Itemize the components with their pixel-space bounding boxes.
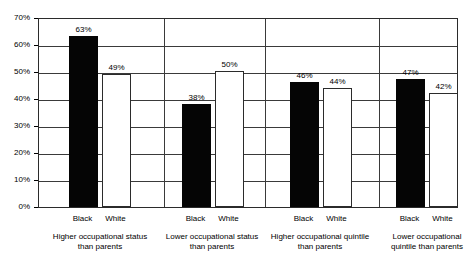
y-tick-label: 70% [14, 14, 30, 22]
series-label-black-group2: Black [181, 214, 210, 223]
y-tick-label: 0% [18, 203, 30, 211]
x-axis: Black White Higher occupational status t… [38, 208, 458, 255]
bar-black-group4 [396, 79, 425, 207]
y-tick-label: 50% [14, 68, 30, 76]
group-label-4: Lower occupational quintile than parents [372, 232, 465, 252]
y-axis: 70% 60% 50% 40% 30% 20% 10% 0% [0, 0, 34, 212]
series-label-black-group3: Black [289, 214, 318, 223]
bar-black-group3 [290, 82, 319, 207]
group-label-3-line1: Higher occupational quintile [249, 232, 391, 242]
bar-value-black-group2: 38% [182, 94, 211, 102]
gridline-60 [39, 46, 457, 47]
bar-value-black-group1: 63% [69, 26, 98, 34]
group-label-4-line1: Lower occupational [372, 232, 465, 242]
group-separator [265, 19, 266, 207]
bar-value-white-group2: 50% [215, 61, 244, 69]
series-label-white-group4: White [428, 214, 457, 223]
group-label-3: Higher occupational quintile than parent… [249, 232, 391, 252]
bar-value-white-group3: 44% [323, 78, 352, 86]
series-label-black-group4: Black [395, 214, 424, 223]
bar-white-group2 [215, 71, 244, 207]
group-label-3-line2: than parents [249, 242, 391, 252]
bar-value-white-group4: 42% [429, 83, 458, 91]
y-tick-label: 20% [14, 149, 30, 157]
plot-area: 63% 49% 38% 50% 46% 44% 47% 42% [38, 18, 458, 208]
y-tick-label: 60% [14, 41, 30, 49]
series-label-black-group1: Black [68, 214, 97, 223]
bar-white-group1 [102, 74, 131, 207]
bar-value-black-group4: 47% [396, 69, 425, 77]
series-label-white-group2: White [214, 214, 243, 223]
y-tick-label: 40% [14, 95, 30, 103]
bar-black-group1 [69, 36, 98, 207]
series-label-white-group1: White [101, 214, 130, 223]
y-tick-label: 30% [14, 122, 30, 130]
group-label-4-line2: quintile than parents [372, 242, 465, 252]
bar-black-group2 [182, 104, 211, 207]
y-tick-label: 10% [14, 176, 30, 184]
bar-value-black-group3: 46% [290, 72, 319, 80]
group-separator [379, 19, 380, 207]
bar-value-white-group1: 49% [102, 64, 131, 72]
bar-white-group3 [323, 88, 352, 207]
series-label-white-group3: White [322, 214, 351, 223]
bar-white-group4 [429, 93, 458, 207]
bar-chart: 70% 60% 50% 40% 30% 20% 10% 0% 63% 49% [0, 0, 465, 255]
group-separator [164, 19, 165, 207]
